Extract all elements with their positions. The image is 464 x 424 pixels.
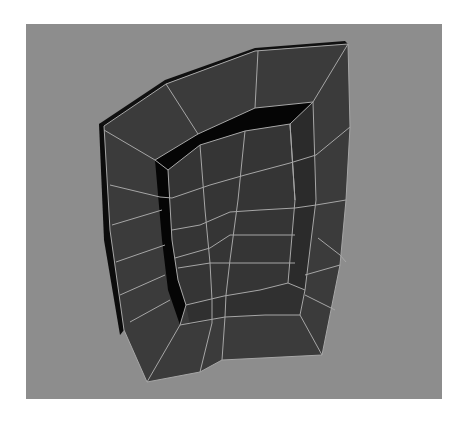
3d-viewport[interactable] xyxy=(26,24,442,399)
mesh-render[interactable] xyxy=(26,24,442,399)
